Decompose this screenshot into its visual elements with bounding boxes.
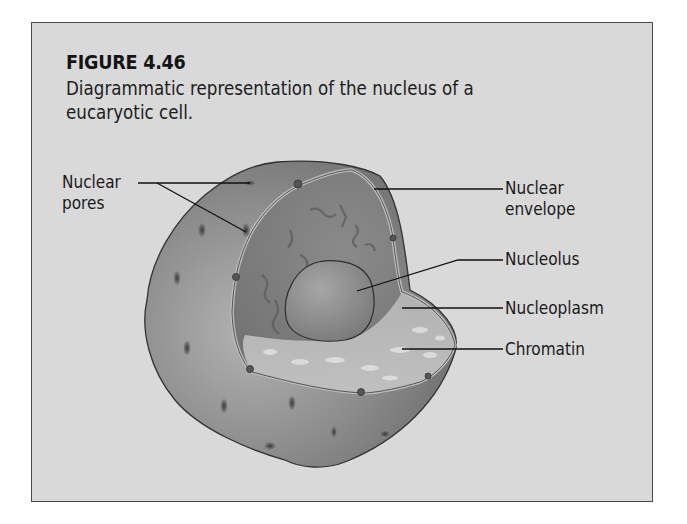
label-nuclear-envelope: Nuclear envelope — [505, 178, 575, 220]
label-nuclear-envelope-line2: envelope — [505, 199, 575, 220]
label-nuclear-pores: Nuclear pores — [62, 172, 121, 214]
label-nuclear-pores-line2: pores — [62, 193, 121, 214]
label-nucleoplasm: Nucleoplasm — [505, 298, 604, 319]
label-nuclear-envelope-line1: Nuclear — [505, 178, 575, 199]
nucleus-diagram — [0, 0, 687, 524]
label-nuclear-pores-line1: Nuclear — [62, 172, 121, 193]
label-nucleolus: Nucleolus — [505, 249, 580, 270]
label-chromatin: Chromatin — [505, 339, 585, 360]
